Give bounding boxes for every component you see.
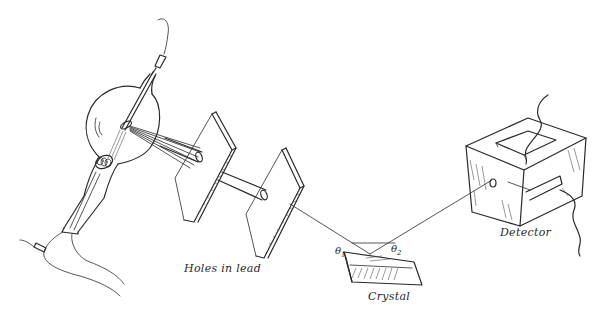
theta1-subscript: 1 [341,251,345,259]
xray-tube [20,19,168,296]
crystal [344,252,422,285]
theta2-subscript: 2 [397,249,401,257]
label-holes-in-lead: Holes in lead [184,262,261,275]
lead-plate-1 [175,112,236,222]
label-detector: Detector [500,226,551,239]
collimated-beam [218,172,269,201]
lead-plate-2 [246,148,304,258]
diffraction-diagram: Holes in lead θ1 θ2 Crystal Detector [0,0,604,318]
label-crystal: Crystal [368,290,410,303]
label-theta-2: θ2 [391,243,402,257]
label-theta-1: θ1 [335,245,346,259]
